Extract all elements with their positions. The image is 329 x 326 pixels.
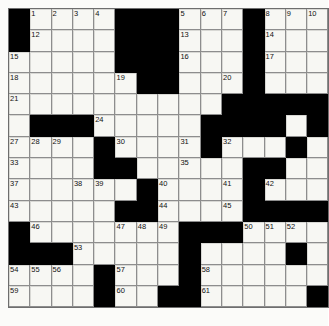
letter-cell[interactable] bbox=[201, 201, 222, 222]
letter-cell[interactable]: 48 bbox=[137, 222, 158, 243]
letter-cell[interactable]: 37 bbox=[9, 179, 30, 200]
letter-cell[interactable]: 45 bbox=[222, 201, 243, 222]
crossword-grid[interactable]: 1234567891012131415161718192021242728293… bbox=[8, 8, 329, 308]
letter-cell[interactable] bbox=[286, 30, 307, 51]
letter-cell[interactable] bbox=[286, 73, 307, 94]
letter-cell[interactable] bbox=[265, 73, 286, 94]
letter-cell[interactable]: 12 bbox=[30, 30, 51, 51]
letter-cell[interactable] bbox=[179, 201, 200, 222]
letter-cell[interactable]: 10 bbox=[307, 9, 328, 30]
letter-cell[interactable] bbox=[115, 179, 136, 200]
letter-cell[interactable]: 51 bbox=[265, 222, 286, 243]
letter-cell[interactable]: 61 bbox=[201, 286, 222, 307]
letter-cell[interactable] bbox=[158, 137, 179, 158]
letter-cell[interactable]: 53 bbox=[73, 243, 94, 264]
letter-cell[interactable]: 4 bbox=[94, 9, 115, 30]
letter-cell[interactable]: 13 bbox=[179, 30, 200, 51]
letter-cell[interactable]: 9 bbox=[286, 9, 307, 30]
letter-cell[interactable] bbox=[158, 94, 179, 115]
letter-cell[interactable]: 2 bbox=[52, 9, 73, 30]
letter-cell[interactable] bbox=[9, 115, 30, 136]
letter-cell[interactable] bbox=[307, 179, 328, 200]
letter-cell[interactable]: 58 bbox=[201, 265, 222, 286]
letter-cell[interactable]: 29 bbox=[52, 137, 73, 158]
letter-cell[interactable] bbox=[222, 30, 243, 51]
letter-cell[interactable] bbox=[222, 243, 243, 264]
letter-cell[interactable] bbox=[179, 94, 200, 115]
letter-cell[interactable]: 21 bbox=[9, 94, 30, 115]
letter-cell[interactable] bbox=[30, 73, 51, 94]
letter-cell[interactable] bbox=[222, 158, 243, 179]
letter-cell[interactable]: 55 bbox=[30, 265, 51, 286]
letter-cell[interactable] bbox=[158, 115, 179, 136]
letter-cell[interactable] bbox=[243, 137, 264, 158]
letter-cell[interactable]: 56 bbox=[52, 265, 73, 286]
letter-cell[interactable]: 59 bbox=[9, 286, 30, 307]
letter-cell[interactable] bbox=[222, 265, 243, 286]
letter-cell[interactable] bbox=[73, 158, 94, 179]
letter-cell[interactable] bbox=[243, 265, 264, 286]
letter-cell[interactable] bbox=[94, 30, 115, 51]
letter-cell[interactable] bbox=[73, 73, 94, 94]
letter-cell[interactable] bbox=[286, 158, 307, 179]
letter-cell[interactable] bbox=[222, 52, 243, 73]
letter-cell[interactable] bbox=[265, 243, 286, 264]
letter-cell[interactable] bbox=[158, 158, 179, 179]
letter-cell[interactable]: 54 bbox=[9, 265, 30, 286]
letter-cell[interactable] bbox=[158, 265, 179, 286]
letter-cell[interactable]: 19 bbox=[115, 73, 136, 94]
letter-cell[interactable] bbox=[179, 73, 200, 94]
letter-cell[interactable] bbox=[115, 243, 136, 264]
letter-cell[interactable]: 18 bbox=[9, 73, 30, 94]
letter-cell[interactable] bbox=[30, 286, 51, 307]
letter-cell[interactable] bbox=[73, 222, 94, 243]
letter-cell[interactable]: 50 bbox=[243, 222, 264, 243]
letter-cell[interactable] bbox=[307, 265, 328, 286]
letter-cell[interactable] bbox=[286, 52, 307, 73]
letter-cell[interactable] bbox=[73, 52, 94, 73]
letter-cell[interactable] bbox=[73, 201, 94, 222]
letter-cell[interactable] bbox=[94, 222, 115, 243]
letter-cell[interactable]: 24 bbox=[94, 115, 115, 136]
letter-cell[interactable]: 47 bbox=[115, 222, 136, 243]
letter-cell[interactable]: 41 bbox=[222, 179, 243, 200]
letter-cell[interactable] bbox=[94, 201, 115, 222]
letter-cell[interactable] bbox=[201, 52, 222, 73]
letter-cell[interactable] bbox=[201, 30, 222, 51]
letter-cell[interactable]: 28 bbox=[30, 137, 51, 158]
letter-cell[interactable] bbox=[30, 158, 51, 179]
letter-cell[interactable] bbox=[73, 286, 94, 307]
letter-cell[interactable]: 43 bbox=[9, 201, 30, 222]
letter-cell[interactable]: 31 bbox=[179, 137, 200, 158]
letter-cell[interactable] bbox=[52, 286, 73, 307]
letter-cell[interactable] bbox=[243, 243, 264, 264]
letter-cell[interactable] bbox=[307, 158, 328, 179]
letter-cell[interactable]: 14 bbox=[265, 30, 286, 51]
letter-cell[interactable]: 44 bbox=[158, 201, 179, 222]
letter-cell[interactable] bbox=[286, 179, 307, 200]
letter-cell[interactable] bbox=[94, 52, 115, 73]
letter-cell[interactable]: 8 bbox=[265, 9, 286, 30]
letter-cell[interactable] bbox=[201, 94, 222, 115]
letter-cell[interactable]: 40 bbox=[158, 179, 179, 200]
letter-cell[interactable] bbox=[52, 73, 73, 94]
letter-cell[interactable] bbox=[179, 115, 200, 136]
letter-cell[interactable]: 3 bbox=[73, 9, 94, 30]
letter-cell[interactable] bbox=[265, 286, 286, 307]
letter-cell[interactable]: 32 bbox=[222, 137, 243, 158]
letter-cell[interactable] bbox=[73, 265, 94, 286]
letter-cell[interactable]: 15 bbox=[9, 52, 30, 73]
letter-cell[interactable] bbox=[137, 115, 158, 136]
letter-cell[interactable] bbox=[179, 179, 200, 200]
letter-cell[interactable]: 17 bbox=[265, 52, 286, 73]
letter-cell[interactable]: 5 bbox=[179, 9, 200, 30]
letter-cell[interactable] bbox=[307, 73, 328, 94]
letter-cell[interactable] bbox=[115, 94, 136, 115]
letter-cell[interactable] bbox=[307, 137, 328, 158]
letter-cell[interactable] bbox=[286, 265, 307, 286]
letter-cell[interactable] bbox=[222, 286, 243, 307]
letter-cell[interactable] bbox=[243, 286, 264, 307]
letter-cell[interactable] bbox=[52, 201, 73, 222]
letter-cell[interactable] bbox=[137, 158, 158, 179]
letter-cell[interactable]: 49 bbox=[158, 222, 179, 243]
